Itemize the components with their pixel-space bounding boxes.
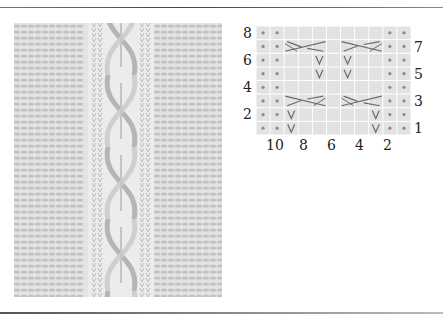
- purl-bump: [154, 264, 160, 267]
- purl-bump: [56, 288, 62, 291]
- purl-bump: [49, 276, 55, 279]
- purl-bump: [175, 30, 181, 33]
- purl-bump: [35, 84, 41, 87]
- purl-bump: [189, 270, 195, 273]
- purl-bump: [63, 72, 69, 75]
- purl-bump: [49, 102, 55, 105]
- purl-bump: [182, 72, 188, 75]
- purl-bump: [189, 120, 195, 123]
- purl-dot: [261, 72, 264, 75]
- purl-bump: [77, 204, 83, 207]
- purl-bump: [70, 162, 76, 165]
- purl-bump: [210, 222, 216, 225]
- purl-bump: [63, 198, 69, 201]
- purl-bump: [189, 174, 195, 177]
- purl-bump: [182, 216, 188, 219]
- purl-bump: [182, 204, 188, 207]
- purl-bump: [203, 102, 209, 105]
- purl-bump: [21, 72, 27, 75]
- purl-bump: [21, 234, 27, 237]
- purl-bump: [210, 150, 216, 153]
- purl-bump: [49, 240, 55, 243]
- purl-bump: [14, 156, 20, 159]
- purl-bump: [14, 180, 20, 183]
- purl-bump: [49, 30, 55, 33]
- purl-bump: [21, 114, 27, 117]
- purl-bump: [77, 96, 83, 99]
- row-label-left: 2: [243, 107, 252, 121]
- purl-dot: [388, 99, 391, 102]
- purl-bump: [56, 144, 62, 147]
- purl-bump: [196, 228, 202, 231]
- purl-bump: [14, 90, 20, 93]
- purl-bump: [49, 126, 55, 129]
- purl-dot: [276, 72, 279, 75]
- purl-bump: [63, 90, 69, 93]
- purl-bump: [175, 102, 181, 105]
- purl-bump: [42, 144, 48, 147]
- purl-bump: [168, 72, 174, 75]
- chart-cell: [299, 54, 312, 67]
- chart-cell: [369, 54, 382, 67]
- purl-bump: [182, 120, 188, 123]
- purl-bump: [175, 210, 181, 213]
- chart-cell: [313, 122, 326, 135]
- purl-bump: [161, 72, 167, 75]
- purl-bump: [189, 216, 195, 219]
- purl-bump: [161, 198, 167, 201]
- purl-bump: [189, 66, 195, 69]
- chart-cell: [355, 67, 368, 80]
- purl-bump: [189, 234, 195, 237]
- purl-bump: [161, 174, 167, 177]
- purl-bump: [35, 276, 41, 279]
- purl-bump: [42, 288, 48, 291]
- purl-bump: [63, 96, 69, 99]
- purl-bump: [14, 162, 20, 165]
- purl-bump: [14, 210, 20, 213]
- purl-bump: [42, 270, 48, 273]
- purl-bump: [210, 186, 216, 189]
- purl-bump: [154, 90, 160, 93]
- purl-bump: [14, 48, 20, 51]
- purl-bump: [175, 48, 181, 51]
- purl-bump: [70, 150, 76, 153]
- chart-cell: [369, 67, 382, 80]
- purl-bump: [56, 138, 62, 141]
- purl-bump: [28, 144, 34, 147]
- purl-bump: [49, 216, 55, 219]
- purl-bump: [21, 240, 27, 243]
- purl-bump: [196, 270, 202, 273]
- purl-bump: [49, 42, 55, 45]
- purl-bump: [21, 36, 27, 39]
- purl-bump: [182, 186, 188, 189]
- purl-bump: [161, 240, 167, 243]
- purl-bump: [168, 42, 174, 45]
- purl-bump: [175, 54, 181, 57]
- purl-bump: [14, 192, 20, 195]
- purl-bump: [63, 132, 69, 135]
- chart-grid: [256, 26, 411, 135]
- purl-dot: [261, 113, 264, 116]
- purl-bump: [189, 276, 195, 279]
- purl-bump: [21, 138, 27, 141]
- purl-bump: [14, 144, 20, 147]
- purl-bump: [21, 186, 27, 189]
- purl-bump: [49, 288, 55, 291]
- purl-bump: [35, 264, 41, 267]
- purl-bump: [77, 132, 83, 135]
- purl-bump: [56, 162, 62, 165]
- purl-bump: [35, 78, 41, 81]
- purl-bump: [168, 150, 174, 153]
- purl-bump: [21, 228, 27, 231]
- purl-bump: [21, 222, 27, 225]
- purl-bump: [168, 180, 174, 183]
- purl-bump: [49, 60, 55, 63]
- purl-bump: [56, 150, 62, 153]
- purl-bump: [70, 138, 76, 141]
- purl-bump: [182, 114, 188, 117]
- purl-bump: [63, 60, 69, 63]
- purl-bump: [203, 156, 209, 159]
- purl-bump: [154, 36, 160, 39]
- purl-bump: [42, 240, 48, 243]
- purl-bump: [35, 36, 41, 39]
